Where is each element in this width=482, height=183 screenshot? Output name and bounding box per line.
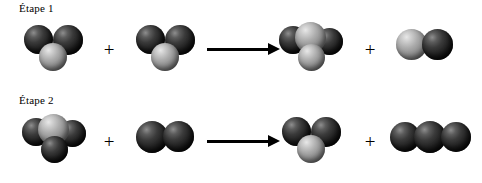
atom-light-lower-center <box>39 43 67 71</box>
step-1-plus-2: + <box>357 18 383 80</box>
step-2-plus-1: + <box>96 110 122 172</box>
step-2-reactant-1 <box>22 110 96 172</box>
step-2-plus-2: + <box>357 110 383 172</box>
molecule-diatomic-dark <box>134 110 206 172</box>
step-2-product-2 <box>389 110 475 172</box>
step-2-reactant-2 <box>134 110 206 172</box>
step-2-label: Étape 2 <box>19 94 54 107</box>
arrow-head <box>268 135 280 147</box>
step-1-product-2 <box>394 18 466 80</box>
arrow-shaft <box>207 48 269 51</box>
atom-dark-lower-center <box>41 136 68 163</box>
step-1-plus-1: + <box>96 18 122 80</box>
molecule-bent-triatomic <box>134 18 206 80</box>
step-1-label: Étape 1 <box>19 2 54 15</box>
step-1-reactant-2 <box>134 18 206 80</box>
step-2-equation: + + <box>0 110 482 172</box>
molecule-linear-triatomic-dark <box>389 110 475 172</box>
atom-dark-right <box>441 122 471 152</box>
reaction-step-2: Étape 2 s + <box>0 92 482 183</box>
molecule-bent-triatomic <box>22 18 94 80</box>
atom-light-lower-center <box>151 43 179 71</box>
atom-dark-right <box>422 29 453 60</box>
arrow-shaft <box>207 140 269 143</box>
step-2-product-1 <box>280 110 352 172</box>
step-1-reaction-arrow-icon <box>207 18 269 80</box>
step-1-reactant-1 <box>22 18 94 80</box>
molecule-diatomic-mixed <box>394 18 466 80</box>
step-1-equation: + + <box>0 18 482 80</box>
reaction-step-1: Étape 1 + <box>0 0 482 91</box>
molecule-bent-triatomic <box>280 110 352 172</box>
atom-light-lower-center <box>298 44 325 71</box>
molecule-tetratomic-cluster <box>279 18 353 80</box>
molecule-tetratomic-cluster <box>22 110 96 172</box>
step-1-product-1 <box>279 18 353 80</box>
atom-light-lower-center <box>297 135 325 163</box>
atom-dark-right <box>163 121 194 152</box>
step-2-reaction-arrow-icon <box>207 110 269 172</box>
